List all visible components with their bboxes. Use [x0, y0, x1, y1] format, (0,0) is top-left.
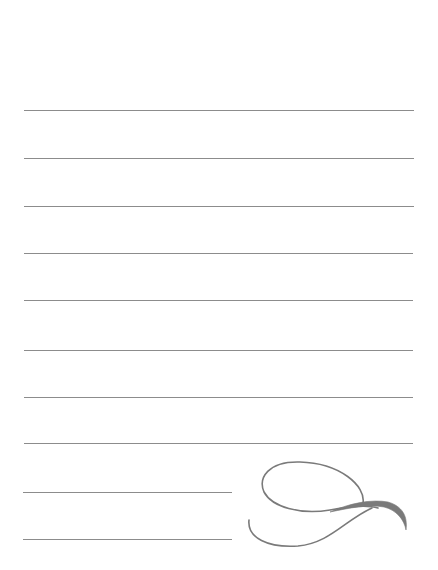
flourish-icon	[0, 0, 438, 570]
notepaper-page	[0, 0, 438, 570]
